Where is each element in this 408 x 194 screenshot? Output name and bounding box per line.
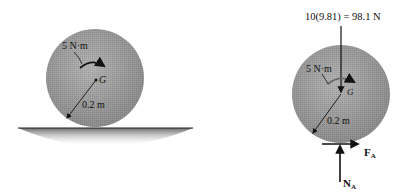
- kinetics-diagram: 5 N·m G 0.2 m 10(9.81) = 98.1 N 5 N·m G …: [0, 0, 408, 194]
- ground-surface: [18, 128, 193, 147]
- friction-label: FA: [364, 146, 376, 160]
- center-label: G: [99, 74, 106, 85]
- fbd-moment-label: 5 N·m: [306, 63, 332, 74]
- fbd-radius-label: 0.2 m: [327, 115, 350, 126]
- right-panel: 10(9.81) = 98.1 N 5 N·m G 0.2 m FA NA: [292, 11, 390, 191]
- weight-label: 10(9.81) = 98.1 N: [305, 11, 381, 23]
- normal-label: NA: [343, 177, 356, 191]
- moment-label: 5 N·m: [62, 40, 88, 51]
- radius-label: 0.2 m: [82, 99, 105, 110]
- fbd-center-label: G: [347, 87, 354, 97]
- left-panel: 5 N·m G 0.2 m: [18, 29, 193, 147]
